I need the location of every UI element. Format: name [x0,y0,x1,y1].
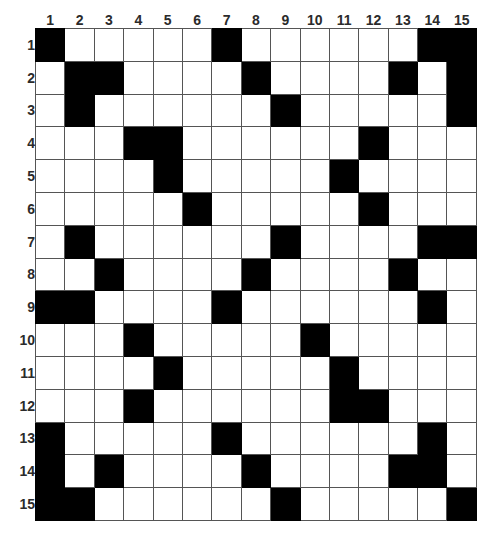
grid-cell-r13-c1[interactable] [36,422,65,455]
grid-cell-r9-c9[interactable] [271,291,300,324]
grid-cell-r6-c7[interactable] [212,192,241,225]
grid-cell-r12-c2[interactable] [65,389,94,422]
grid-cell-r1-c8[interactable] [241,29,270,62]
grid-cell-r14-c5[interactable] [153,455,182,488]
grid-cell-r2-c10[interactable] [300,61,329,94]
grid-cell-r11-c8[interactable] [241,356,270,389]
grid-cell-r12-c10[interactable] [300,389,329,422]
grid-cell-r10-c12[interactable] [359,324,388,357]
grid-cell-r8-c15[interactable] [447,258,476,291]
grid-cell-r15-c13[interactable] [388,488,417,521]
grid-cell-r4-c14[interactable] [418,127,447,160]
grid-cell-r4-c9[interactable] [271,127,300,160]
grid-cell-r11-c12[interactable] [359,356,388,389]
grid-cell-r2-c14[interactable] [418,61,447,94]
grid-cell-r7-c13[interactable] [388,225,417,258]
grid-cell-r11-c7[interactable] [212,356,241,389]
grid-cell-r7-c3[interactable] [94,225,123,258]
grid-cell-r1-c6[interactable] [182,29,211,62]
grid-cell-r10-c11[interactable] [329,324,358,357]
grid-cell-r10-c1[interactable] [36,324,65,357]
grid-cell-r1-c15[interactable] [447,29,476,62]
grid-cell-r4-c8[interactable] [241,127,270,160]
grid-cell-r9-c5[interactable] [153,291,182,324]
grid-cell-r12-c4[interactable] [124,389,153,422]
grid-cell-r15-c8[interactable] [241,488,270,521]
grid-cell-r11-c3[interactable] [94,356,123,389]
grid-cell-r11-c9[interactable] [271,356,300,389]
grid-cell-r4-c2[interactable] [65,127,94,160]
grid-cell-r8-c7[interactable] [212,258,241,291]
grid-cell-r15-c5[interactable] [153,488,182,521]
grid-cell-r3-c12[interactable] [359,94,388,127]
grid-cell-r6-c1[interactable] [36,192,65,225]
grid-cell-r9-c2[interactable] [65,291,94,324]
grid-cell-r11-c10[interactable] [300,356,329,389]
grid-cell-r8-c1[interactable] [36,258,65,291]
grid-cell-r7-c5[interactable] [153,225,182,258]
grid-cell-r6-c9[interactable] [271,192,300,225]
grid-cell-r3-c10[interactable] [300,94,329,127]
grid-cell-r1-c13[interactable] [388,29,417,62]
grid-cell-r9-c15[interactable] [447,291,476,324]
grid-cell-r5-c11[interactable] [329,160,358,193]
grid-cell-r4-c7[interactable] [212,127,241,160]
grid-cell-r3-c4[interactable] [124,94,153,127]
grid-cell-r5-c3[interactable] [94,160,123,193]
grid-cell-r13-c14[interactable] [418,422,447,455]
grid-cell-r6-c4[interactable] [124,192,153,225]
grid-cell-r9-c10[interactable] [300,291,329,324]
grid-cell-r3-c1[interactable] [36,94,65,127]
grid-cell-r10-c13[interactable] [388,324,417,357]
grid-cell-r3-c5[interactable] [153,94,182,127]
grid-cell-r10-c6[interactable] [182,324,211,357]
grid-cell-r11-c6[interactable] [182,356,211,389]
grid-cell-r12-c12[interactable] [359,389,388,422]
grid-cell-r12-c7[interactable] [212,389,241,422]
grid-cell-r8-c2[interactable] [65,258,94,291]
grid-cell-r5-c8[interactable] [241,160,270,193]
grid-cell-r8-c5[interactable] [153,258,182,291]
grid-cell-r7-c4[interactable] [124,225,153,258]
grid-cell-r5-c12[interactable] [359,160,388,193]
grid-cell-r9-c12[interactable] [359,291,388,324]
grid-cell-r3-c3[interactable] [94,94,123,127]
grid-cell-r7-c12[interactable] [359,225,388,258]
grid-cell-r14-c12[interactable] [359,455,388,488]
grid-cell-r5-c1[interactable] [36,160,65,193]
grid-cell-r11-c15[interactable] [447,356,476,389]
grid-cell-r5-c2[interactable] [65,160,94,193]
grid-cell-r12-c9[interactable] [271,389,300,422]
grid-cell-r3-c7[interactable] [212,94,241,127]
grid-cell-r11-c14[interactable] [418,356,447,389]
grid-cell-r15-c1[interactable] [36,488,65,521]
grid-cell-r8-c3[interactable] [94,258,123,291]
grid-cell-r8-c8[interactable] [241,258,270,291]
grid-cell-r12-c6[interactable] [182,389,211,422]
grid-cell-r7-c6[interactable] [182,225,211,258]
grid-cell-r12-c1[interactable] [36,389,65,422]
grid-cell-r15-c11[interactable] [329,488,358,521]
grid-cell-r8-c12[interactable] [359,258,388,291]
grid-cell-r12-c11[interactable] [329,389,358,422]
grid-cell-r10-c9[interactable] [271,324,300,357]
grid-cell-r7-c8[interactable] [241,225,270,258]
grid-cell-r3-c9[interactable] [271,94,300,127]
grid-cell-r13-c3[interactable] [94,422,123,455]
grid-cell-r2-c5[interactable] [153,61,182,94]
grid-cell-r10-c5[interactable] [153,324,182,357]
grid-cell-r6-c6[interactable] [182,192,211,225]
grid-cell-r2-c4[interactable] [124,61,153,94]
grid-cell-r4-c11[interactable] [329,127,358,160]
grid-cell-r4-c12[interactable] [359,127,388,160]
grid-cell-r13-c15[interactable] [447,422,476,455]
grid-cell-r11-c13[interactable] [388,356,417,389]
grid-cell-r3-c2[interactable] [65,94,94,127]
grid-cell-r4-c3[interactable] [94,127,123,160]
grid-cell-r4-c4[interactable] [124,127,153,160]
grid-cell-r9-c3[interactable] [94,291,123,324]
grid-cell-r9-c4[interactable] [124,291,153,324]
grid-cell-r13-c8[interactable] [241,422,270,455]
grid-cell-r14-c11[interactable] [329,455,358,488]
grid-cell-r15-c6[interactable] [182,488,211,521]
